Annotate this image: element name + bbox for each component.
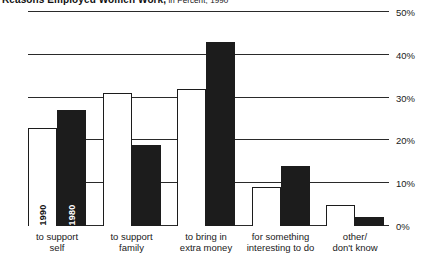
bar-1980-5 [355,217,384,226]
plot-area: 0%10%20%30%40%50%19901980 [28,12,357,226]
x-axis-category-label: other/ don't know [317,232,393,253]
y-axis-tick-label: 0% [396,221,410,232]
gridline [28,11,389,12]
x-axis-category-label: to support self [19,232,95,253]
y-axis-tick-label: 10% [396,178,415,189]
bar-1980-2 [132,145,161,226]
bar-1990-1: 1990 [28,128,57,226]
bar-1980-1: 1980 [57,110,86,226]
bar-1980-4 [281,166,310,226]
series-label-1990: 1990 [38,204,48,225]
bar-1990-2 [103,93,132,226]
bar-1990-5 [326,205,355,226]
chart-title-main: Reasons Employed Women Work, [2,0,166,5]
x-axis-category-label: to support family [94,232,170,253]
x-axis-category-label: to bring in extra money [168,232,244,253]
series-label-1980: 1980 [67,204,77,225]
y-axis-tick-label: 30% [396,92,415,103]
x-axis-category-label: for something interesting to do [243,232,319,253]
bar-1980-3 [206,42,235,226]
chart-title-subtitle: in Percent, 1990 [166,0,228,5]
chart-title: Reasons Employed Women Work, in Percent,… [2,0,228,5]
chart-container: Reasons Employed Women Work, in Percent,… [0,0,432,265]
y-axis-tick-label: 40% [396,49,415,60]
bar-1990-4 [252,187,281,226]
y-axis-tick-label: 20% [396,135,415,146]
y-axis-tick-label: 50% [396,7,415,18]
bar-1990-3 [177,89,206,226]
